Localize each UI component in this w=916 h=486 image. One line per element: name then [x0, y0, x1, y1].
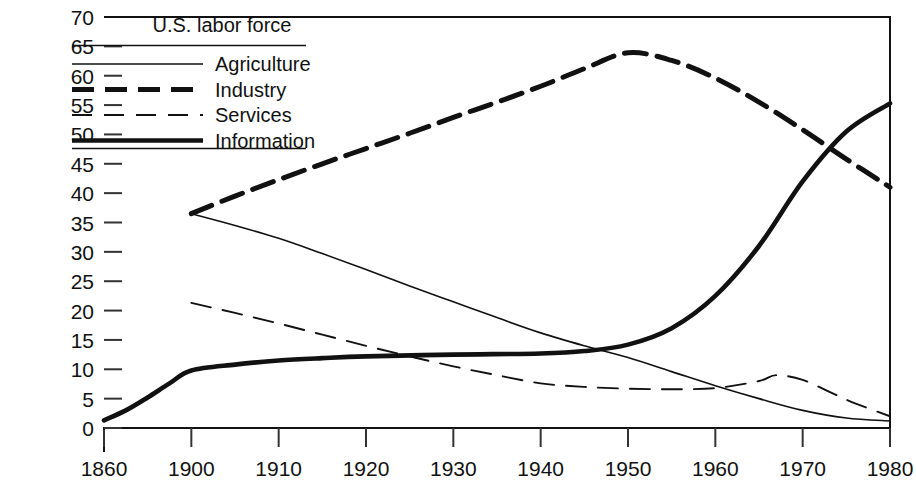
y-tick-label: 10 — [71, 358, 94, 381]
x-tick-label: 1860 — [81, 457, 128, 480]
y-tick-label: 55 — [71, 94, 94, 117]
y-tick-label: 40 — [71, 182, 94, 205]
x-tick-label: 1970 — [779, 457, 826, 480]
labor-force-line-chart: 0510152025303540455055606570 18601900191… — [0, 0, 916, 486]
series-line-agriculture — [191, 214, 890, 421]
y-tick-label: 25 — [71, 270, 94, 293]
x-tick-label: 1930 — [430, 457, 477, 480]
y-tick-label: 30 — [71, 241, 94, 264]
legend-title: U.S. labor force — [153, 14, 292, 36]
x-tick-label: 1950 — [605, 457, 652, 480]
y-tick-label: 0 — [82, 417, 94, 440]
y-axis-ticks — [104, 46, 122, 428]
y-tick-label: 70 — [71, 6, 94, 29]
y-tick-label: 45 — [71, 153, 94, 176]
x-axis-labels: 1860190019101920193019401950196019701980 — [81, 457, 914, 480]
y-tick-label: 15 — [71, 329, 94, 352]
y-axis-labels: 0510152025303540455055606570 — [71, 6, 94, 440]
legend-label-information: Information — [215, 130, 315, 152]
y-tick-label: 5 — [82, 388, 94, 411]
x-axis-ticks — [104, 428, 890, 447]
chart-container: 0510152025303540455055606570 18601900191… — [0, 0, 916, 486]
x-tick-label: 1920 — [343, 457, 390, 480]
chart-legend: U.S. labor force AgricultureIndustryServ… — [72, 14, 315, 152]
x-tick-label: 1960 — [692, 457, 739, 480]
y-tick-label: 20 — [71, 300, 94, 323]
x-tick-label: 1980 — [867, 457, 914, 480]
x-tick-label: 1940 — [517, 457, 564, 480]
x-tick-label: 1910 — [255, 457, 302, 480]
legend-label-industry: Industry — [215, 79, 286, 101]
x-tick-label: 1900 — [168, 457, 215, 480]
y-tick-label: 60 — [71, 65, 94, 88]
legend-label-agriculture: Agriculture — [215, 53, 311, 75]
y-tick-label: 35 — [71, 212, 94, 235]
legend-label-services: Services — [215, 104, 292, 126]
y-tick-label: 50 — [71, 123, 94, 146]
y-tick-label: 65 — [71, 35, 94, 58]
